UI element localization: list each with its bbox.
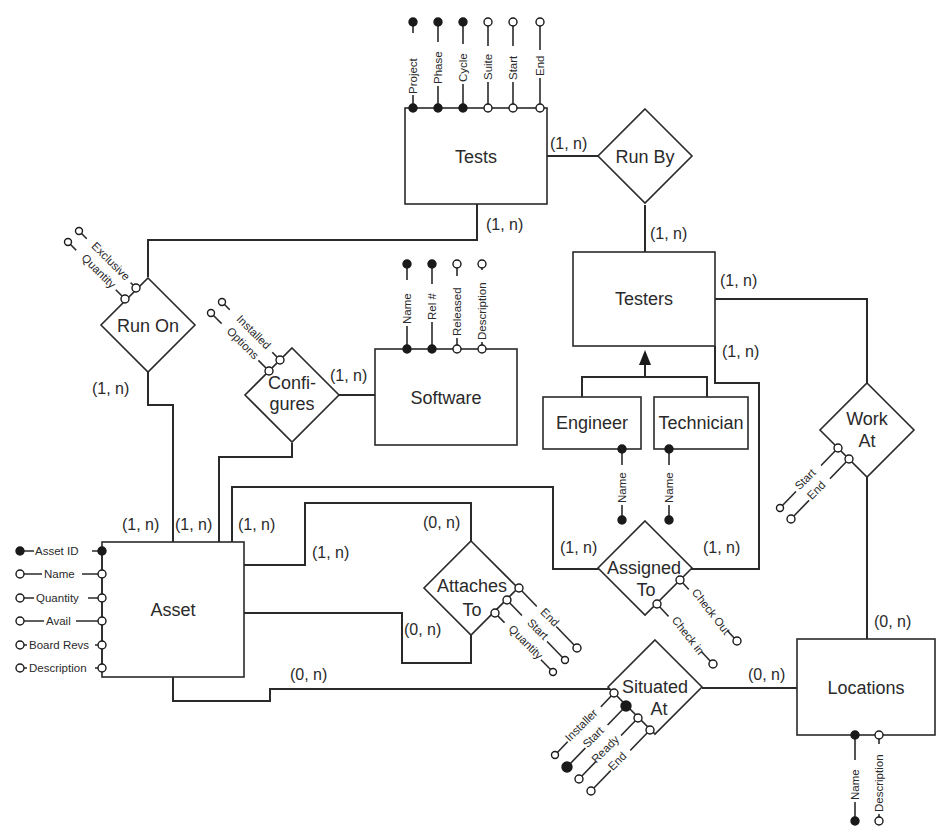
attribute-name: Name <box>400 260 414 353</box>
relationship-situated-at[interactable]: Situated At <box>608 640 702 734</box>
relationship-label-line1: Attaches <box>437 576 507 596</box>
attribute-description: Description <box>872 731 886 825</box>
relationship-label-line1: Confi- <box>268 373 316 393</box>
svg-text:Board Revs: Board Revs <box>29 639 89 651</box>
svg-text:Description: Description <box>29 662 87 674</box>
cardinality-label: (1, n) <box>550 135 587 152</box>
cardinality-label: (1, n) <box>486 216 523 233</box>
svg-text:Name: Name <box>44 568 75 580</box>
relationship-label-line2: To <box>636 580 655 600</box>
svg-text:Rel #: Rel # <box>426 293 438 320</box>
cardinality-label: (1, n) <box>92 380 129 397</box>
cardinality-label: (0, n) <box>423 514 460 531</box>
entity-testers[interactable]: Testers <box>573 252 715 346</box>
optional-attribute-icon <box>484 104 492 112</box>
svg-text:Suite: Suite <box>482 54 494 80</box>
attribute-start: Start <box>777 444 843 512</box>
attribute-phase: Phase <box>431 18 445 112</box>
entity-software[interactable]: Software <box>375 349 517 445</box>
relationship-label-line1: Work <box>846 409 889 429</box>
attribute-description: Description <box>475 260 489 353</box>
isa-arrow-icon <box>639 350 651 365</box>
relationship-label-line2: At <box>858 431 875 451</box>
attribute-end: End <box>533 18 547 112</box>
cardinality-label: (1, n) <box>720 272 757 289</box>
er-diagram: Tests Testers Engineer Technician Softwa… <box>0 0 949 835</box>
optional-attribute-icon <box>536 104 544 112</box>
cardinality-label: (0, n) <box>748 666 785 683</box>
optional-attribute-icon <box>484 18 492 26</box>
attribute-cycle: Cycle <box>456 18 470 112</box>
entity-label: Testers <box>615 289 673 309</box>
cardinality-label: (0, n) <box>290 666 327 683</box>
key-attribute-icon <box>409 104 417 112</box>
cardinality-label: (1, n) <box>330 367 367 384</box>
entity-label: Engineer <box>556 413 628 433</box>
relationship-label: Run On <box>117 316 179 336</box>
svg-text:Asset ID: Asset ID <box>35 545 78 557</box>
svg-text:Project: Project <box>407 57 419 94</box>
entity-asset[interactable]: Asset <box>102 542 244 677</box>
optional-attribute-icon <box>536 18 544 26</box>
optional-attribute-icon <box>509 18 517 26</box>
software-attributes: Name Rel # Released Description <box>400 260 489 353</box>
relationship-label-line2: At <box>650 699 667 719</box>
cardinality-label: (0, n) <box>874 613 911 630</box>
entity-engineer[interactable]: Engineer <box>543 397 641 449</box>
relationship-run-by[interactable]: Run By <box>598 109 692 203</box>
cardinality-label: (1, n) <box>703 539 740 556</box>
relationship-run-on[interactable]: Run On <box>101 278 195 372</box>
svg-text:Name: Name <box>401 293 413 324</box>
key-attribute-icon <box>409 18 417 26</box>
attribute-description: Description <box>16 660 106 676</box>
svg-text:Quantity: Quantity <box>36 592 79 604</box>
cardinality-label: (1, n) <box>560 539 597 556</box>
svg-text:Cycle: Cycle <box>457 53 469 82</box>
attribute-avail: Avail <box>16 613 106 629</box>
relationship-assigned-to[interactable]: Assigned To <box>598 521 692 615</box>
entity-locations[interactable]: Locations <box>797 639 935 735</box>
key-attribute-icon <box>434 104 442 112</box>
svg-text:Avail: Avail <box>46 615 71 627</box>
relationship-label-line1: Assigned <box>607 558 681 578</box>
engineer-attributes: Name <box>615 445 629 524</box>
attaches-to-attributes: End Start Quantity <box>491 584 581 676</box>
svg-text:End: End <box>534 56 546 76</box>
relationship-work-at[interactable]: Work At <box>820 383 914 477</box>
svg-text:Phase: Phase <box>432 51 444 84</box>
relationship-label: Run By <box>615 147 674 167</box>
attribute-name: Name <box>16 566 106 582</box>
key-attribute-icon <box>459 18 467 26</box>
svg-text:Released: Released <box>451 287 463 336</box>
cardinality-label: (1, n) <box>312 544 349 561</box>
svg-text:Check in: Check in <box>670 614 707 657</box>
entity-tests[interactable]: Tests <box>405 108 547 204</box>
attribute-rel-number: Rel # <box>425 260 439 353</box>
attribute-asset-id: Asset ID <box>16 543 106 559</box>
relationship-label-line2: gures <box>269 394 314 414</box>
run-on-attributes: Exclusive Quantity <box>65 228 141 304</box>
tests-attributes: Project Phase Cycle Suite <box>406 18 547 112</box>
cardinality-label: (1, n) <box>650 225 687 242</box>
cardinality-label: (1, n) <box>722 343 759 360</box>
attribute-name: Name <box>848 731 862 825</box>
key-attribute-icon <box>459 104 467 112</box>
relationship-label-line1: Situated <box>622 677 688 697</box>
entity-technician[interactable]: Technician <box>654 397 748 449</box>
attribute-start: Start <box>506 18 520 112</box>
work-at-attributes: Start End <box>777 444 854 523</box>
attribute-project: Project <box>406 18 420 112</box>
relationship-label-line2: To <box>462 600 481 620</box>
entity-label: Tests <box>455 147 497 167</box>
attribute-released: Released <box>450 260 464 353</box>
cardinality-label: (0, n) <box>404 621 441 638</box>
attribute-board-revs: Board Revs <box>16 637 106 653</box>
cardinality-label: (1, n) <box>175 516 212 533</box>
svg-text:Description: Description <box>873 754 885 812</box>
svg-text:Name: Name <box>616 472 628 503</box>
entity-label: Technician <box>658 413 743 433</box>
asset-attributes: Asset ID Name Quantity Avail <box>16 543 106 676</box>
optional-attribute-icon <box>509 104 517 112</box>
svg-text:Name: Name <box>663 472 675 503</box>
entity-label: Asset <box>150 600 195 620</box>
